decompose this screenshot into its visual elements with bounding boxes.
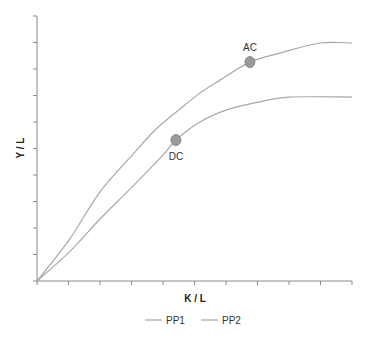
plot-lines <box>37 42 352 281</box>
label-ac: AC <box>243 42 257 53</box>
axes <box>33 16 352 285</box>
y-axis-title: Y / L <box>15 138 26 159</box>
point-markers: ACDC <box>169 42 257 162</box>
line-pp2 <box>37 97 352 281</box>
legend: PP1PP2 <box>145 315 241 326</box>
legend-label-pp1: PP1 <box>166 315 185 326</box>
marker-ac <box>245 57 255 68</box>
line-pp1 <box>37 42 352 281</box>
x-axis-title: K / L <box>184 293 206 304</box>
marker-dc <box>171 135 181 146</box>
label-dc: DC <box>169 151 183 162</box>
chart: ACDC K / L Y / L PP1PP2 <box>0 0 367 339</box>
legend-label-pp2: PP2 <box>222 315 241 326</box>
